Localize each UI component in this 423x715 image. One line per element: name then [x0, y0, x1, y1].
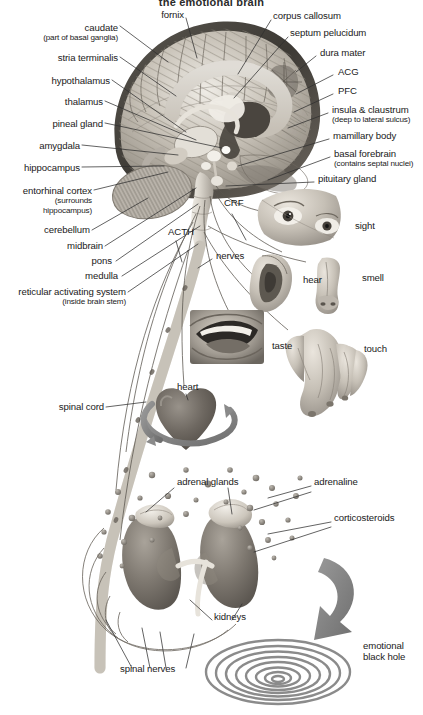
label-adrenaline: adrenaline [314, 476, 358, 487]
heart-illustration [144, 388, 235, 450]
kidneys-illustration [122, 499, 258, 614]
label-dura-mater: dura mater [320, 47, 365, 58]
eyes-illustration [258, 189, 341, 246]
label-emotional-black-hole: emotional black hole [363, 640, 405, 663]
label-adrenal-glands: adrenal glands [177, 476, 239, 487]
label-nerves: nerves [216, 250, 244, 261]
label-pons: pons [76, 255, 112, 266]
label-corticosteroids: corticosteroids [334, 512, 394, 523]
mouth-illustration [190, 310, 264, 364]
label-fornix: fornix [130, 9, 184, 20]
label-corpus-callosum: corpus callosum [273, 10, 341, 21]
label-basal-forebrain: basal forebrain (contains septal nuclei) [334, 148, 413, 169]
label-kidneys: kidneys [214, 611, 246, 622]
label-insula-claustrum: insula & claustrum (deep to lateral sulc… [332, 104, 410, 125]
label-hypothalamus: hypothalamus [24, 75, 110, 86]
nose-illustration [316, 257, 341, 314]
label-septum-pelucidum: septum pelucidum [290, 27, 366, 38]
label-sight: sight [355, 220, 375, 231]
hand-illustration [286, 329, 368, 417]
label-amygdala: amygdala [14, 140, 80, 151]
label-acth: ACTH [168, 226, 194, 237]
label-taste: taste [272, 340, 292, 351]
label-spinal-cord: spinal cord [36, 401, 104, 412]
label-entorhinal-cortex: entorhinal cortex (surrounds hippocampus… [2, 185, 92, 215]
label-touch: touch [364, 343, 387, 354]
label-pituitary-gland: pituitary gland [318, 173, 376, 184]
label-thalamus: thalamus [30, 96, 103, 107]
spiral-illustration [206, 640, 350, 704]
label-heart: heart [177, 381, 198, 392]
label-smell: smell [362, 272, 384, 283]
label-acg: ACG [338, 66, 359, 77]
label-medulla: medulla [70, 270, 118, 281]
label-cerebellum: cerebellum [24, 224, 90, 235]
ear-illustration [250, 254, 292, 312]
label-caudate: caudate (part of basal ganglia) [18, 22, 118, 43]
label-spinal-nerves: spinal nerves [120, 663, 175, 674]
label-midbrain: midbrain [46, 240, 103, 251]
label-crf: CRF [224, 197, 243, 208]
diagram-canvas: the emotional brain caudate (part of bas… [0, 0, 423, 715]
curved-arrow [314, 558, 354, 640]
label-pfc: PFC [338, 85, 357, 96]
label-mamillary-body: mamillary body [333, 130, 396, 141]
label-pineal-gland: pineal gland [18, 118, 103, 129]
label-hear: hear [303, 274, 322, 285]
label-stria-terminalis: stria terminalis [28, 52, 118, 63]
label-reticular-activating-system: reticular activating system (inside brai… [2, 286, 126, 307]
label-hippocampus: hippocampus [2, 162, 80, 173]
page-title: the emotional brain [0, 0, 423, 8]
